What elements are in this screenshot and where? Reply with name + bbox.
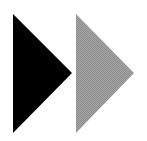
black-triangle-icon [13,14,72,133]
gray-triangle-icon [76,14,134,133]
fast-forward-svg [0,0,147,141]
fast-forward-icon [0,0,147,141]
